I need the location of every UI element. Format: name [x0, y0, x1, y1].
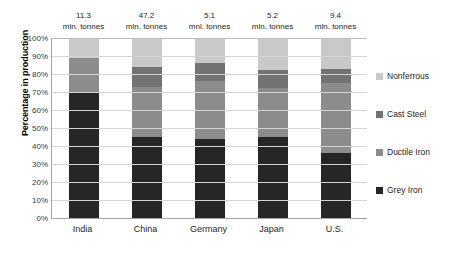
- gridline: [52, 92, 367, 93]
- x-axis-category-label: China: [114, 224, 177, 234]
- y-axis-tick-label: 100%: [28, 34, 48, 43]
- legend-swatch-icon: [376, 73, 383, 80]
- gridline: [52, 128, 367, 129]
- bar-segment[interactable]: [132, 137, 162, 218]
- bar-segment[interactable]: [132, 67, 162, 87]
- annotation-value: 9.4: [296, 10, 376, 21]
- x-axis-category-label: Japan: [240, 224, 303, 234]
- y-axis-tick-labels: 100%90%80%70%60%50%40%30%20%10%0%: [18, 38, 48, 218]
- x-axis-category-label: Germany: [177, 224, 240, 234]
- x-axis-category-label: India: [51, 224, 114, 234]
- gridline: [52, 38, 367, 39]
- bar-annotation: 9.4mln. tonnes: [296, 10, 376, 32]
- bar-segment[interactable]: [321, 153, 351, 218]
- legend-item[interactable]: Nonferrous: [376, 57, 452, 95]
- legend-item[interactable]: Ductile Iron: [376, 133, 452, 171]
- y-axis-tick-label: 50%: [32, 124, 48, 133]
- x-axis-category-label: U.S.: [303, 224, 366, 234]
- y-axis-tick-label: 70%: [32, 88, 48, 97]
- bar-segment[interactable]: [321, 69, 351, 83]
- gridline: [52, 146, 367, 147]
- gridline: [52, 110, 367, 111]
- bar-segment[interactable]: [321, 38, 351, 69]
- y-axis-tick-label: 40%: [32, 142, 48, 151]
- stacked-bar-chart: Percentage in production 100%90%80%70%60…: [0, 0, 452, 255]
- y-axis-tick-label: 80%: [32, 70, 48, 79]
- legend-item[interactable]: Grey Iron: [376, 171, 452, 209]
- legend-swatch-icon: [376, 187, 383, 194]
- bar-segment[interactable]: [258, 38, 288, 70]
- y-axis-tick-label: 60%: [32, 106, 48, 115]
- y-axis-tick-label: 0%: [36, 214, 48, 223]
- annotation-unit: mln. tonnes: [296, 21, 376, 32]
- bar-segment[interactable]: [132, 38, 162, 67]
- legend-label: Grey Iron: [387, 185, 422, 195]
- x-axis-category-labels: IndiaChinaGermanyJapanU.S.: [51, 224, 366, 234]
- chart-legend: NonferrousCast SteelDuctile IronGrey Iro…: [376, 57, 452, 209]
- y-axis-tick-label: 20%: [32, 178, 48, 187]
- bar-segment[interactable]: [258, 88, 288, 137]
- legend-label: Nonferrous: [387, 71, 429, 81]
- gridline: [52, 200, 367, 201]
- gridline: [52, 164, 367, 165]
- gridline: [52, 74, 367, 75]
- gridline: [52, 182, 367, 183]
- plot-area: 11.3mln. tonnes47.2mln. tonnes5.1mnl. to…: [51, 38, 367, 219]
- bar-segment[interactable]: [258, 137, 288, 218]
- bar-segment[interactable]: [69, 38, 99, 58]
- bar-segment[interactable]: [132, 87, 162, 137]
- y-axis-tick-label: 90%: [32, 52, 48, 61]
- legend-label: Cast Steel: [387, 109, 426, 119]
- bar-segment[interactable]: [195, 139, 225, 218]
- gridline: [52, 56, 367, 57]
- legend-item[interactable]: Cast Steel: [376, 95, 452, 133]
- bar-segment[interactable]: [195, 38, 225, 63]
- legend-swatch-icon: [376, 111, 383, 118]
- bar-segment[interactable]: [195, 63, 225, 81]
- y-axis-tick-label: 30%: [32, 160, 48, 169]
- legend-label: Ductile Iron: [387, 147, 430, 157]
- y-axis-tick-label: 10%: [32, 196, 48, 205]
- legend-swatch-icon: [376, 149, 383, 156]
- bar-segment[interactable]: [321, 83, 351, 153]
